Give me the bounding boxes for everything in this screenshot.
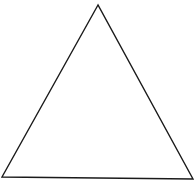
triangle-outline [2,5,193,179]
triangle-diagram [0,0,195,184]
diagram-canvas [0,0,195,184]
